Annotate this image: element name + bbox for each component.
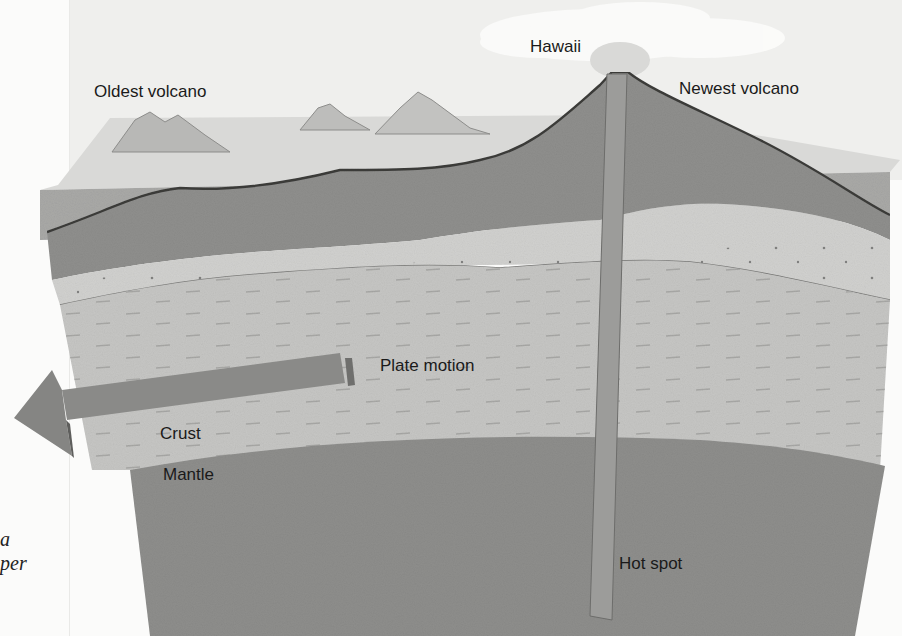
caption-fragment-1: a xyxy=(0,528,10,551)
label-plate-motion: Plate motion xyxy=(380,356,475,376)
caption-fragment-2: per xyxy=(0,552,27,575)
label-oldest-volcano: Oldest volcano xyxy=(94,82,206,102)
label-hot-spot: Hot spot xyxy=(619,554,682,574)
mantle-layer xyxy=(130,437,885,636)
label-newest-volcano: Newest volcano xyxy=(679,79,799,99)
label-hawaii: Hawaii xyxy=(530,37,581,57)
label-mantle: Mantle xyxy=(163,465,214,485)
label-crust: Crust xyxy=(160,424,201,444)
